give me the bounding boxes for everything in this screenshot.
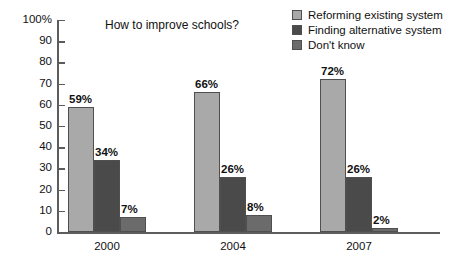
legend-swatch-icon [292,40,302,50]
bar-chart: 0102030405060708090100% 200020042007 How… [0,0,470,263]
y-axis-labels: 0102030405060708090100% [0,0,52,263]
legend-label: Reforming existing system [308,9,443,22]
bar-value-label: 26% [221,163,244,175]
bar-value-label: 26% [347,163,370,175]
bar [120,217,146,232]
legend-swatch-icon [292,10,302,20]
bar-value-label: 7% [121,203,138,215]
y-tick-label: 60 [0,99,52,111]
chart-legend: Reforming existing systemFinding alterna… [292,8,470,53]
bar-value-label: 2% [373,214,390,226]
y-tick-label: 40 [0,141,52,153]
bar-value-label: 66% [195,78,218,90]
y-tick-label: 70 [0,78,52,90]
bar [68,107,94,232]
bar-value-label: 34% [95,146,118,158]
x-tick-label: 2007 [329,240,389,252]
legend-item: Don't know [292,38,470,52]
y-tick-label: 0 [0,226,52,238]
y-tick-label: 10 [0,205,52,217]
y-tick-label: 80 [0,56,52,68]
bar [372,228,398,232]
x-axis-line [57,232,440,234]
bar [320,79,346,232]
legend-item: Finding alternative system [292,23,470,37]
bar [220,177,246,232]
legend-label: Don't know [308,39,365,52]
x-tick-label: 2004 [203,240,263,252]
bar [346,177,372,232]
y-tick-label: 30 [0,162,52,174]
y-tick-label: 50 [0,120,52,132]
bar [94,160,120,232]
legend-swatch-icon [292,25,302,35]
y-tick-label: 100% [0,14,52,26]
legend-label: Finding alternative system [308,24,442,37]
bar [246,215,272,232]
y-tick-label: 90 [0,35,52,47]
x-tick-label: 2000 [77,240,137,252]
bar-value-label: 8% [247,201,264,213]
bar-value-label: 72% [321,65,344,77]
bar-value-label: 59% [69,93,92,105]
y-tick-label: 20 [0,184,52,196]
legend-item: Reforming existing system [292,8,470,22]
bar [194,92,220,232]
